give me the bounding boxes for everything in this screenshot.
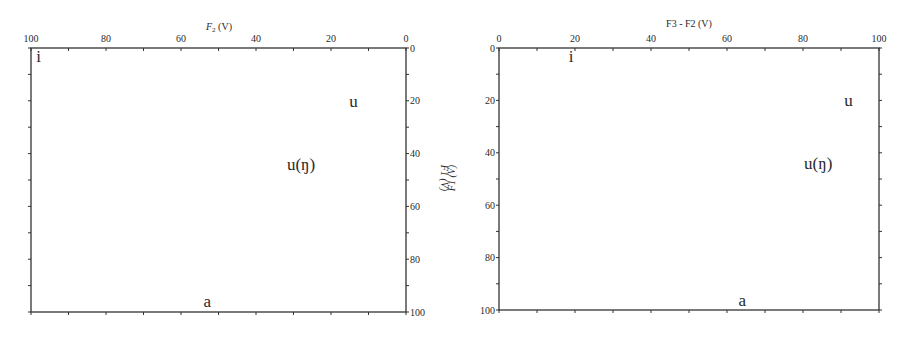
right-x-axis-label: F3 - F2 (V) <box>666 18 712 30</box>
x-tick-label: 80 <box>798 33 808 44</box>
x-tick-label: 0 <box>404 33 409 44</box>
x-tick-label: 40 <box>251 33 261 44</box>
right-x-tick-labels: 020406080100 <box>497 33 887 44</box>
left-x-tick-labels: 100806040200 <box>24 33 409 44</box>
vowel-label: u(ŋ) <box>804 154 832 173</box>
vowel-label: i <box>569 47 574 66</box>
right-x-ticks <box>499 48 879 313</box>
y-tick-label: 40 <box>485 147 495 158</box>
vowel-label: i <box>36 47 41 66</box>
y-tick-label: 0 <box>410 43 415 54</box>
x-tick-label: 20 <box>326 33 336 44</box>
y-tick-label: 0 <box>490 43 495 54</box>
vowel-label: u <box>844 91 853 110</box>
y-tick-label: 100 <box>410 307 425 318</box>
y-tick-label: 60 <box>410 201 420 212</box>
vowel-label: u <box>349 92 358 111</box>
x-tick-label: 80 <box>101 33 111 44</box>
right-plot-frame <box>499 48 879 310</box>
y-tick-label: 20 <box>485 95 495 106</box>
x-tick-label: 0 <box>497 33 502 44</box>
left-x-axis-label: F2 (V) <box>205 21 232 34</box>
y-tick-label: 100 <box>480 305 495 316</box>
left-y-ticks <box>28 48 409 312</box>
vowel-label: a <box>738 291 746 310</box>
vowel-label: u(ŋ) <box>287 155 315 174</box>
vowel-label: a <box>203 292 211 311</box>
right-y-tick-labels: 020406080100 <box>480 43 495 316</box>
right-y-ticks <box>496 48 882 310</box>
left-plot-frame <box>31 48 406 312</box>
y-tick-label: 40 <box>410 148 420 159</box>
x-tick-label: 40 <box>646 33 656 44</box>
x-tick-label: 60 <box>722 33 732 44</box>
left-vowel-points: iuu(ŋ)a <box>36 47 358 312</box>
left-y-tick-labels: 020406080100 <box>410 43 425 318</box>
right-vowel-points: iuu(ŋ)a <box>569 47 854 310</box>
y-tick-label: 80 <box>410 254 420 265</box>
y-tick-label: 80 <box>485 252 495 263</box>
x-tick-label: 20 <box>570 33 580 44</box>
x-tick-label: 100 <box>24 33 39 44</box>
y-tick-label: 60 <box>485 200 495 211</box>
left-chart: 100806040200 020406080100 F2 (V) iuu(ŋ)a… <box>0 0 460 345</box>
y-tick-label: 20 <box>410 95 420 106</box>
left-y-axis-label: F1 (V) <box>446 164 458 192</box>
x-tick-label: 100 <box>872 33 887 44</box>
x-tick-label: 60 <box>176 33 186 44</box>
left-x-ticks <box>31 48 406 315</box>
